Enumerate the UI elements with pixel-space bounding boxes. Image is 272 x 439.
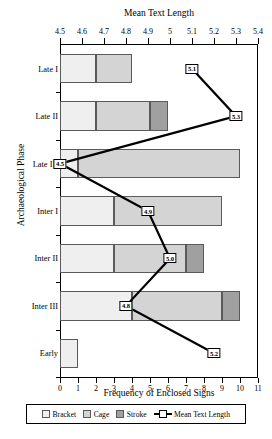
x-tick bbox=[222, 378, 223, 383]
top-tick bbox=[258, 38, 259, 44]
y-tick bbox=[56, 235, 61, 236]
top-tick bbox=[148, 38, 149, 44]
y-category-late-ii: Late II bbox=[0, 112, 58, 121]
data-label: 5.3 bbox=[229, 111, 242, 121]
legend-label-cage: Cage bbox=[94, 410, 110, 419]
top-tick-label: 5 bbox=[158, 27, 182, 36]
top-tick-label: 4.6 bbox=[70, 27, 94, 36]
x-tick bbox=[186, 378, 187, 383]
bar-segment bbox=[186, 244, 204, 273]
data-label: 4.5 bbox=[53, 159, 66, 169]
y-category-inter-i: Inter I bbox=[0, 207, 58, 216]
y-category-early: Early bbox=[0, 349, 58, 358]
x-tick bbox=[96, 378, 97, 383]
legend-swatch-cage bbox=[83, 410, 91, 418]
top-axis-title: Mean Text Length bbox=[60, 8, 258, 18]
legend-line-marker-icon bbox=[154, 410, 172, 418]
legend-item-stroke: Stroke bbox=[116, 410, 146, 419]
top-tick bbox=[192, 38, 193, 44]
y-tick bbox=[56, 330, 61, 331]
top-tick bbox=[214, 38, 215, 44]
x-tick bbox=[168, 378, 169, 383]
x-tick bbox=[114, 378, 115, 383]
legend-item-bracket: Bracket bbox=[42, 410, 76, 419]
x-tick bbox=[60, 378, 61, 383]
data-label: 5.0 bbox=[163, 253, 176, 263]
bar-segment bbox=[60, 196, 114, 225]
x-tick bbox=[150, 378, 151, 383]
y-tick bbox=[56, 187, 61, 188]
top-tick-label: 4.7 bbox=[92, 27, 116, 36]
top-tick-label: 4.8 bbox=[114, 27, 138, 36]
data-label: 5.2 bbox=[207, 348, 220, 358]
bar-segment bbox=[150, 101, 168, 130]
legend-label-stroke: Stroke bbox=[127, 410, 147, 419]
top-tick bbox=[170, 38, 171, 44]
top-tick-label: 4.5 bbox=[48, 27, 72, 36]
y-tick bbox=[56, 377, 61, 378]
top-tick-label: 5.2 bbox=[202, 27, 226, 36]
legend-item-mean-text-length: Mean Text Length bbox=[154, 410, 230, 419]
legend: Bracket Cage Stroke Mean Text Length bbox=[26, 404, 246, 424]
x-tick bbox=[258, 378, 259, 383]
data-label: 5.1 bbox=[185, 64, 198, 74]
bar-segment bbox=[96, 101, 150, 130]
y-tick bbox=[56, 92, 61, 93]
y-category-late-iii: Late III bbox=[0, 159, 58, 168]
bar-segment bbox=[60, 54, 96, 83]
top-tick-label: 5.3 bbox=[224, 27, 248, 36]
chart-root: Mean Text Length Frequency of Enclosed S… bbox=[0, 0, 272, 439]
top-tick bbox=[236, 38, 237, 44]
top-tick-label: 5.4 bbox=[246, 27, 270, 36]
x-tick bbox=[240, 378, 241, 383]
y-tick bbox=[56, 282, 61, 283]
legend-swatch-stroke bbox=[116, 410, 124, 418]
y-category-late-i: Late I bbox=[0, 64, 58, 73]
top-tick bbox=[82, 38, 83, 44]
x-tick bbox=[78, 378, 79, 383]
bar-segment bbox=[132, 291, 222, 320]
bar-segment bbox=[222, 291, 240, 320]
legend-label-mean-text-length: Mean Text Length bbox=[174, 410, 230, 419]
bar-segment bbox=[114, 196, 222, 225]
x-tick-label: 11 bbox=[246, 384, 270, 393]
y-tick bbox=[56, 140, 61, 141]
top-tick-label: 4.9 bbox=[136, 27, 160, 36]
y-category-inter-iii: Inter III bbox=[0, 301, 58, 310]
top-tick-label: 5.1 bbox=[180, 27, 204, 36]
x-tick bbox=[132, 378, 133, 383]
top-tick bbox=[60, 38, 61, 44]
bar-segment bbox=[78, 149, 240, 178]
data-label: 4.8 bbox=[119, 301, 132, 311]
x-tick bbox=[204, 378, 205, 383]
top-tick bbox=[104, 38, 105, 44]
legend-item-cage: Cage bbox=[83, 410, 109, 419]
top-tick bbox=[126, 38, 127, 44]
bar-segment bbox=[60, 244, 114, 273]
legend-swatch-bracket bbox=[42, 410, 50, 418]
data-label: 4.9 bbox=[141, 206, 154, 216]
y-category-inter-ii: Inter II bbox=[0, 254, 58, 263]
legend-label-bracket: Bracket bbox=[53, 410, 77, 419]
bar-segment bbox=[60, 101, 96, 130]
bar-segment bbox=[60, 339, 78, 368]
y-axis-title: Archaeological Phase bbox=[16, 115, 26, 255]
bar-segment bbox=[96, 54, 132, 83]
